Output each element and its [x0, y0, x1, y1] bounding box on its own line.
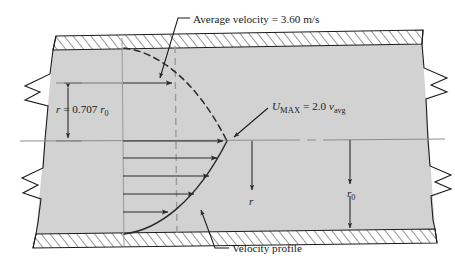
label-u-max: UMAX = 2.0 vavg	[272, 101, 346, 115]
figure-laminar-velocity-profile: Average velocity = 3.60 m/s UMAX = 2.0 v…	[0, 0, 455, 273]
r0707-relation: =	[63, 103, 69, 115]
u-max-subscript: MAX	[280, 105, 300, 115]
label-average-velocity: Average velocity = 3.60 m/s	[193, 14, 319, 25]
r0707-symbol: r	[56, 103, 60, 115]
r0707-coefficient: 0.707	[72, 103, 97, 115]
label-pipe-radius: r0	[347, 188, 355, 202]
u-max-symbol: U	[272, 100, 280, 112]
pipe-flow-diagram	[0, 0, 455, 273]
label-radial-coordinate: r	[249, 196, 253, 207]
pipe-radius-subscript: 0	[351, 193, 355, 202]
label-radius-0707: r = 0.707 r0	[56, 104, 109, 118]
label-velocity-profile: Velocity profile	[232, 243, 302, 254]
pipe-fluid-region	[36, 44, 435, 234]
r0707-ref-subscript: 0	[105, 109, 109, 118]
u-max-ref-subscript: avg	[334, 106, 346, 115]
u-max-factor: 2.0	[312, 100, 326, 112]
u-max-relation: =	[303, 100, 309, 112]
